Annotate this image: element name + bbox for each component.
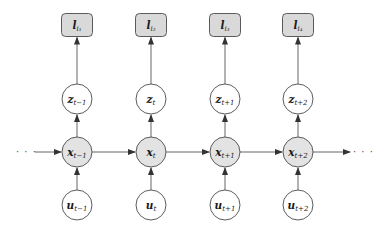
ellipsis-right: · · · bbox=[353, 146, 374, 157]
nodes-layer: li₁zt−1xt−1ut−1li₂ztxtutli₃zt+1xt+1ut+1l… bbox=[62, 14, 314, 221]
ellipsis-left: · · · bbox=[16, 146, 37, 157]
edges-layer bbox=[35, 38, 350, 191]
graphical-model-diagram: · · · · · · li₁zt−1xt−1ut−1li₂ztxtutli₃z… bbox=[0, 0, 387, 233]
